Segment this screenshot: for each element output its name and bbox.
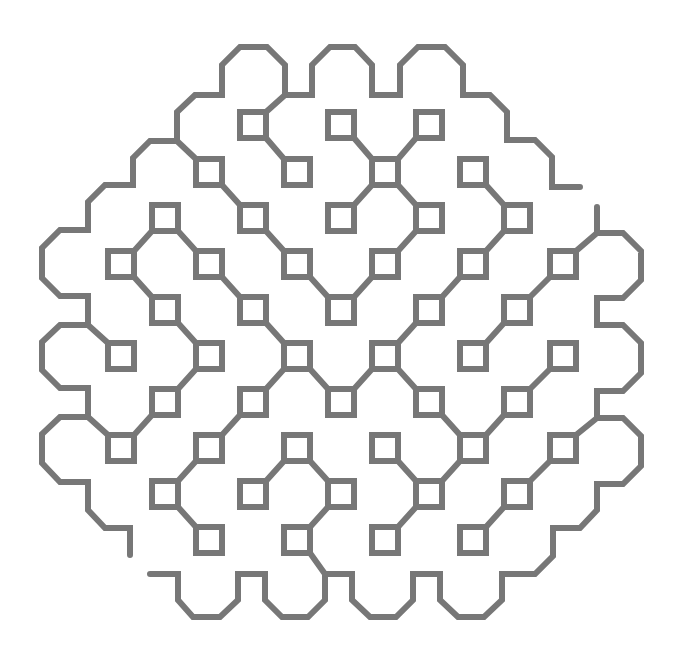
square-loop-J4 — [460, 527, 486, 553]
square-loop-I4 — [416, 481, 442, 507]
square-loop-F1 — [108, 343, 134, 369]
square-loop-J2 — [284, 527, 310, 553]
square-loop-D5 — [460, 251, 486, 277]
square-loop-C1 — [152, 205, 178, 231]
square-loop-G2 — [240, 389, 266, 415]
square-loop-J3 — [372, 527, 398, 553]
square-loop-I2 — [240, 481, 266, 507]
square-loop-E2 — [240, 297, 266, 323]
square-loop-C2 — [240, 205, 266, 231]
square-loop-I3 — [328, 481, 354, 507]
square-loop-H2 — [196, 435, 222, 461]
square-loop-D6 — [550, 251, 576, 277]
square-loop-E5 — [504, 297, 530, 323]
square-loop-B3 — [372, 159, 398, 185]
square-loop-H3 — [284, 435, 310, 461]
anchor-J2 — [310, 553, 325, 574]
square-loop-D3 — [284, 251, 310, 277]
square-loop-C3 — [328, 205, 354, 231]
square-loop-B4 — [460, 159, 486, 185]
square-loop-H6 — [550, 435, 576, 461]
square-loop-G4 — [416, 389, 442, 415]
square-loop-B1 — [196, 159, 222, 185]
square-loop-G3 — [328, 389, 354, 415]
square-loop-F6 — [550, 343, 576, 369]
square-loop-A3 — [416, 112, 442, 138]
anchor-D6 — [576, 233, 597, 251]
square-loop-G5 — [504, 389, 530, 415]
square-loop-A2 — [328, 112, 354, 138]
fractal-curve-svg — [0, 0, 683, 658]
connector-lines — [88, 95, 597, 574]
square-loops — [108, 112, 576, 553]
anchor-H6 — [576, 418, 597, 435]
square-loop-H5 — [460, 435, 486, 461]
square-loop-E3 — [328, 297, 354, 323]
square-loop-F3 — [284, 343, 310, 369]
square-loop-E4 — [416, 297, 442, 323]
outline-left — [42, 325, 130, 555]
square-loop-I5 — [504, 481, 530, 507]
square-loop-H1 — [108, 435, 134, 461]
fractal-curve-figure — [0, 0, 683, 658]
square-loop-C4 — [416, 205, 442, 231]
square-loop-G1 — [152, 389, 178, 415]
connector-A3-B3 — [398, 138, 416, 159]
square-loop-D4 — [372, 251, 398, 277]
square-loop-C5 — [504, 205, 530, 231]
square-loop-F5 — [460, 343, 486, 369]
square-loop-J1 — [196, 527, 222, 553]
square-loop-I1 — [152, 481, 178, 507]
square-loop-H4 — [372, 435, 398, 461]
square-loop-D2 — [196, 251, 222, 277]
square-loop-E1 — [152, 297, 178, 323]
connector-A1-B2 — [266, 138, 284, 159]
outline-paths — [42, 47, 641, 617]
square-loop-F4 — [372, 343, 398, 369]
square-loop-F2 — [196, 343, 222, 369]
square-loop-A1 — [240, 112, 266, 138]
connector-A2-B3 — [354, 138, 372, 159]
square-loop-B2 — [284, 159, 310, 185]
square-loop-D1 — [108, 251, 134, 277]
